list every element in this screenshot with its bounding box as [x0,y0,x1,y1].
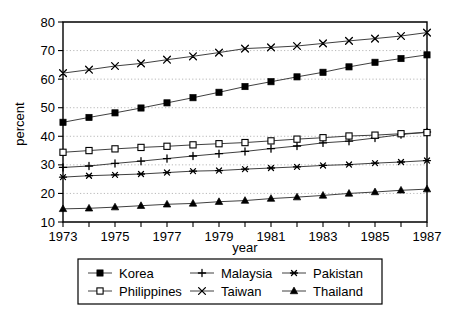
data-point-thailand [215,198,222,205]
series-korea [60,52,430,126]
x-axis-ticks [63,222,427,227]
data-point-malaysia [215,150,222,157]
legend-label: Taiwan [221,284,261,299]
data-point-thailand [423,185,430,192]
data-point-korea [112,110,118,116]
x-tick-label: 1973 [49,229,78,244]
series-layer [59,29,430,211]
data-point-philippines [372,132,378,138]
data-point-malaysia [241,148,248,155]
x-tick-label: 1979 [205,229,234,244]
data-point-malaysia [267,145,274,152]
data-point-korea [398,55,404,61]
legend-label: Philippines [119,284,182,299]
data-point-korea [320,69,326,75]
data-point-pakistan [138,171,145,176]
data-point-pakistan [86,173,93,178]
series-taiwan [60,29,431,76]
data-point-korea [190,95,196,101]
legend-marker-filled-square [97,270,103,276]
data-point-korea [424,52,430,58]
data-point-pakistan [398,159,405,164]
y-tick-label: 60 [41,72,55,87]
data-point-philippines [60,149,66,155]
data-point-philippines [320,135,326,141]
data-point-philippines [268,138,274,144]
series-thailand [59,185,430,211]
data-point-pakistan [242,167,249,172]
data-point-thailand [85,204,92,211]
data-point-malaysia [189,152,196,159]
x-tick-label: 1987 [413,229,442,244]
data-point-malaysia [293,142,300,149]
data-point-pakistan [164,170,171,175]
legend-label: Korea [119,266,154,281]
data-point-korea [164,100,170,106]
data-point-philippines [424,129,430,135]
data-point-philippines [294,136,300,142]
y-axis-title: percent [12,102,27,146]
data-point-pakistan [346,162,353,167]
x-axis-title: year [232,240,258,255]
data-point-korea [86,114,92,120]
data-point-pakistan [294,164,301,169]
data-point-malaysia [163,155,170,162]
y-axis-tick-labels: 1020304050607080 [41,15,55,230]
data-point-malaysia [85,162,92,169]
data-point-philippines [138,144,144,150]
series-line [63,33,427,74]
y-tick-label: 10 [41,215,55,230]
x-tick-label: 1975 [101,229,130,244]
data-point-pakistan [216,168,223,173]
data-point-pakistan [320,163,327,168]
data-point-pakistan [190,169,197,174]
data-point-philippines [346,133,352,139]
data-point-pakistan [268,165,275,170]
legend-label: Pakistan [313,266,363,281]
line-chart: 1020304050607080 19731975197719791981198… [0,0,455,324]
data-point-korea [294,74,300,80]
data-point-malaysia [137,158,144,165]
data-point-korea [242,83,248,89]
legend-label: Malaysia [221,266,273,281]
legend-marker-open-square [97,288,103,294]
data-point-philippines [398,131,404,137]
y-tick-label: 70 [41,43,55,58]
x-tick-label: 1983 [309,229,338,244]
data-point-philippines [164,143,170,149]
chart-legend: KoreaMalaysiaPakistanPhilippinesTaiwanTh… [78,259,382,304]
y-tick-label: 80 [41,15,55,30]
y-tick-label: 40 [41,129,55,144]
data-point-korea [372,59,378,65]
x-tick-label: 1985 [361,229,390,244]
data-point-korea [268,79,274,85]
data-point-philippines [216,141,222,147]
y-tick-label: 20 [41,186,55,201]
data-point-philippines [112,146,118,152]
data-point-pakistan [372,161,379,166]
data-point-philippines [242,139,248,145]
data-point-pakistan [112,172,119,177]
x-tick-label: 1977 [153,229,182,244]
data-point-malaysia [111,160,118,167]
data-point-philippines [86,147,92,153]
data-point-thailand [397,186,404,193]
data-point-korea [60,119,66,125]
data-point-thailand [59,205,66,212]
data-point-thailand [163,200,170,207]
legend-label: Thailand [313,284,363,299]
chart-container: 1020304050607080 19731975197719791981198… [0,0,455,324]
y-tick-label: 50 [41,100,55,115]
data-point-korea [216,89,222,95]
y-tick-label: 30 [41,157,55,172]
data-point-korea [346,64,352,70]
x-tick-label: 1981 [257,229,286,244]
data-point-philippines [190,142,196,148]
data-point-korea [138,105,144,111]
